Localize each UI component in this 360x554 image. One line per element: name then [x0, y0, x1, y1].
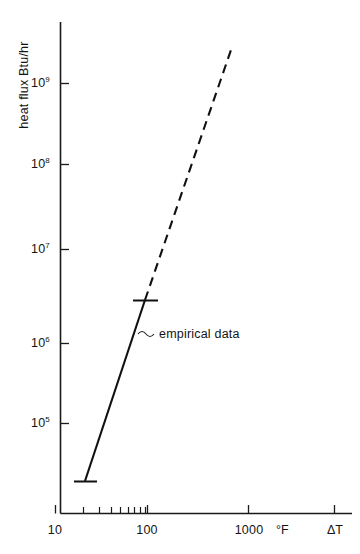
annotation-leader-tilde [138, 332, 154, 337]
y-tick-exponent: 7 [45, 241, 50, 250]
y-tick-mantissa: 10 [31, 336, 45, 350]
y-tick-exponent: 5 [45, 415, 50, 424]
y-tick-label-1e9: 109 [4, 76, 50, 90]
y-tick-label-1e5: 105 [4, 416, 50, 430]
extrapolation-line [145, 47, 232, 300]
chart-page: heat flux Btu/hr 109 108 107 106 105 10 … [0, 0, 360, 554]
y-tick-mantissa: 10 [31, 76, 45, 90]
y-tick-mantissa: 10 [31, 157, 45, 171]
y-tick-mantissa: 10 [31, 242, 45, 256]
y-tick-label-1e7: 107 [4, 242, 50, 256]
x-axis-variable-label: ΔT [327, 523, 343, 537]
y-tick-mantissa: 10 [31, 416, 45, 430]
y-tick-label-1e8: 108 [4, 157, 50, 171]
y-tick-exponent: 8 [45, 156, 50, 165]
empirical-data-annotation-label: empirical data [159, 327, 240, 341]
y-tick-exponent: 6 [45, 335, 50, 344]
x-tick-label-100: 100 [127, 523, 167, 537]
y-tick-label-1e6: 106 [4, 336, 50, 350]
empirical-data-line [85, 300, 145, 481]
x-axis-unit-label: °F [276, 523, 289, 537]
x-tick-label-10: 10 [35, 523, 75, 537]
y-tick-exponent: 9 [45, 75, 50, 84]
chart-canvas [0, 0, 360, 554]
x-tick-label-1000: 1000 [226, 523, 272, 537]
